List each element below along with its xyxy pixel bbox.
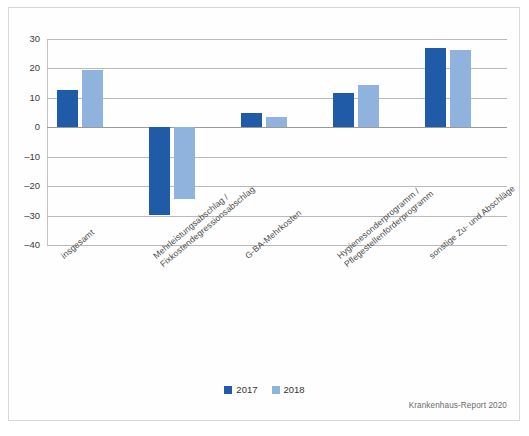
y-axis-tick-label: 0 <box>35 123 40 133</box>
legend-label: 2017 <box>236 385 257 395</box>
chart-figure: 3020100–10–20–30–40 insgesamtMehrleistun… <box>0 0 529 436</box>
y-axis-tick-label: 30 <box>29 34 40 44</box>
y-axis-tick-label: –10 <box>24 152 40 162</box>
bar-group <box>231 39 323 245</box>
y-axis-tick-label: 10 <box>29 93 40 103</box>
legend-label: 2018 <box>284 385 305 395</box>
legend-item-2017[interactable]: 2017 <box>224 385 257 395</box>
bar-group <box>415 39 507 245</box>
bar-2017-2[interactable] <box>241 113 262 127</box>
bar-2017-1[interactable] <box>149 127 170 215</box>
chart-legend: 20172018 <box>0 385 529 395</box>
bar-2018-0[interactable] <box>82 70 103 127</box>
y-axis-tick-label: –40 <box>24 240 40 250</box>
legend-swatch-icon <box>224 386 232 394</box>
y-axis-tick-label: –30 <box>24 211 40 221</box>
y-axis-tick-label: –20 <box>24 181 40 191</box>
legend-item-2018[interactable]: 2018 <box>272 385 305 395</box>
bar-2018-1[interactable] <box>174 127 195 199</box>
bar-2018-2[interactable] <box>266 117 287 128</box>
bar-2018-4[interactable] <box>450 50 471 127</box>
bar-2017-0[interactable] <box>57 90 78 127</box>
plot-area: 3020100–10–20–30–40 <box>47 39 507 245</box>
y-axis-tick-label: 20 <box>29 64 40 74</box>
legend-swatch-icon <box>272 386 280 394</box>
source-note: Krankenhaus-Report 2020 <box>409 401 507 410</box>
bar-2017-4[interactable] <box>425 48 446 127</box>
bar-group <box>47 39 139 245</box>
bar-2018-3[interactable] <box>358 85 379 128</box>
bar-2017-3[interactable] <box>333 93 354 127</box>
